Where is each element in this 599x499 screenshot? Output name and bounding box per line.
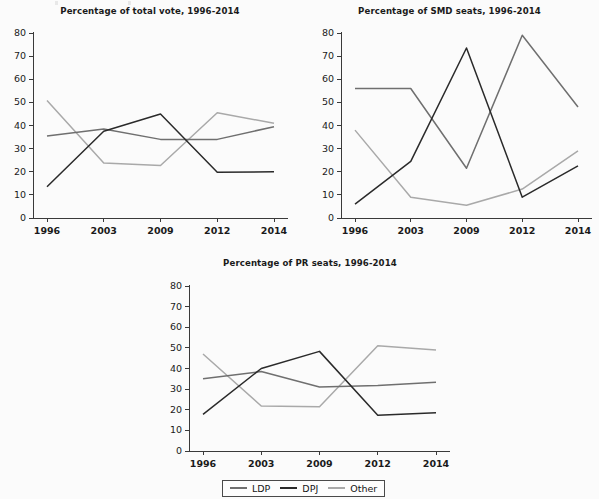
svg-text:70: 70 [322, 50, 334, 61]
svg-text:2012: 2012 [204, 225, 230, 236]
svg-text:0: 0 [328, 212, 334, 223]
svg-text:60: 60 [170, 321, 182, 332]
svg-text:2003: 2003 [91, 225, 117, 236]
legend-label-dpj: DPJ [302, 483, 318, 494]
scan-artifact-left [55, 1, 58, 5]
svg-text:50: 50 [322, 96, 334, 107]
svg-text:2003: 2003 [248, 458, 274, 469]
svg-text:50: 50 [14, 96, 26, 107]
scan-artifact-right [128, 1, 131, 5]
svg-text:10: 10 [322, 189, 334, 200]
svg-text:20: 20 [170, 404, 182, 415]
svg-text:30: 30 [322, 143, 334, 154]
svg-text:2003: 2003 [398, 225, 424, 236]
legend-swatch-ldp [230, 487, 247, 489]
chart-svg-smd-seats: 0102030405060708019962003200920122014 [300, 23, 599, 255]
svg-text:20: 20 [322, 166, 334, 177]
svg-text:2009: 2009 [306, 458, 332, 469]
svg-text:2009: 2009 [453, 225, 479, 236]
svg-text:1996: 1996 [190, 458, 217, 469]
svg-text:20: 20 [14, 166, 26, 177]
chart-legend: LDP DPJ Other [222, 480, 385, 497]
chart-svg-pr-seats: 0102030405060708019962003200920122014 [150, 276, 470, 486]
svg-text:0: 0 [176, 445, 182, 456]
legend-swatch-other [328, 487, 345, 489]
svg-text:80: 80 [170, 280, 182, 291]
series-line-other [47, 101, 274, 166]
svg-text:2014: 2014 [261, 225, 288, 236]
chart-title-pr-seats: Percentage of PR seats, 1996-2014 [150, 258, 470, 269]
svg-text:80: 80 [322, 27, 334, 38]
svg-text:2009: 2009 [147, 225, 173, 236]
svg-text:50: 50 [170, 342, 182, 353]
series-line-dpj [47, 114, 274, 187]
series-line-other [203, 346, 436, 407]
svg-text:2012: 2012 [509, 225, 535, 236]
chart-title-total-vote: Percentage of total vote, 1996-2014 [0, 6, 300, 17]
svg-text:1996: 1996 [342, 225, 369, 236]
svg-text:40: 40 [14, 120, 26, 131]
legend-entry-dpj[interactable]: DPJ [280, 483, 318, 494]
legend-entry-other[interactable]: Other [328, 483, 377, 494]
svg-text:30: 30 [170, 383, 182, 394]
svg-text:80: 80 [14, 27, 26, 38]
svg-text:2014: 2014 [565, 225, 592, 236]
legend-entry-ldp[interactable]: LDP [230, 483, 270, 494]
chart-panel-total-vote: Percentage of total vote, 1996-2014 0102… [0, 6, 300, 255]
chart-panel-pr-seats: Percentage of PR seats, 1996-2014 010203… [150, 258, 470, 486]
plot-area-smd-seats: 0102030405060708019962003200920122014 [300, 23, 599, 255]
svg-text:10: 10 [14, 189, 26, 200]
legend-swatch-dpj [280, 487, 297, 489]
chart-title-smd-seats: Percentage of SMD seats, 1996-2014 [300, 6, 599, 17]
svg-text:30: 30 [14, 143, 26, 154]
svg-text:60: 60 [14, 73, 26, 84]
series-line-dpj [355, 48, 578, 204]
svg-text:40: 40 [170, 363, 182, 374]
svg-text:70: 70 [170, 301, 182, 312]
chart-svg-total-vote: 0102030405060708019962003200920122014 [0, 23, 300, 255]
svg-text:1996: 1996 [34, 225, 61, 236]
legend-label-ldp: LDP [252, 483, 270, 494]
svg-text:0: 0 [20, 212, 26, 223]
plot-area-pr-seats: 0102030405060708019962003200920122014 [150, 276, 470, 486]
svg-text:2014: 2014 [423, 458, 450, 469]
svg-text:70: 70 [14, 50, 26, 61]
series-line-ldp [355, 35, 578, 168]
svg-text:40: 40 [322, 120, 334, 131]
chart-panel-smd-seats: Percentage of SMD seats, 1996-2014 01020… [300, 6, 599, 255]
svg-text:10: 10 [170, 424, 182, 435]
svg-text:60: 60 [322, 73, 334, 84]
plot-area-total-vote: 0102030405060708019962003200920122014 [0, 23, 300, 255]
legend-label-other: Other [350, 483, 377, 494]
svg-text:2012: 2012 [365, 458, 391, 469]
